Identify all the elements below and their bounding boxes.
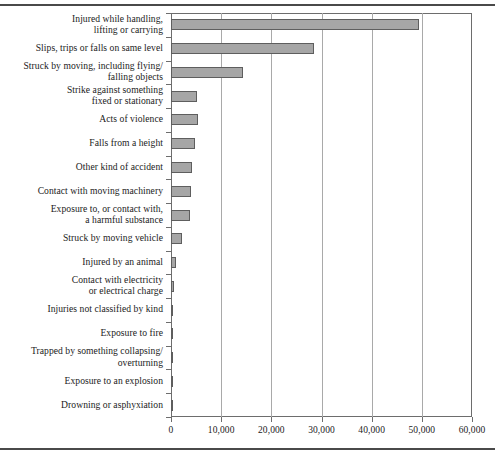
y-tickmark (166, 393, 171, 394)
bar (171, 67, 243, 78)
bar (171, 186, 191, 197)
bar (171, 43, 314, 54)
y-tickmark (166, 61, 171, 62)
gridline-40000 (372, 13, 373, 417)
category-label: Injuries not classified by kind (0, 303, 163, 314)
y-tickmark (166, 203, 171, 204)
category-label: Struck by moving vehicle (0, 232, 163, 243)
gridline-50000 (422, 13, 423, 417)
bar (171, 281, 174, 292)
y-tickmark (166, 346, 171, 347)
category-label: Exposure to fire (0, 327, 163, 338)
y-tickmark (166, 156, 171, 157)
bar (171, 352, 173, 363)
y-tickmark (166, 108, 171, 109)
category-label: Drowning or asphyxiation (0, 399, 163, 410)
y-tickmark (166, 298, 171, 299)
bar (171, 257, 176, 268)
bar (171, 305, 173, 316)
bar (171, 328, 173, 339)
category-label: Contact with moving machinery (0, 185, 163, 196)
bar (171, 91, 197, 102)
y-tickmark (166, 251, 171, 252)
horizontal-bar-chart: Injured while handling, lifting or carry… (0, 0, 495, 458)
gridline-20000 (271, 13, 272, 417)
x-tickmark (472, 417, 473, 422)
category-label: Acts of violence (0, 113, 163, 124)
y-tickmark (166, 274, 171, 275)
bar (171, 138, 195, 149)
bar (171, 210, 190, 221)
bar (171, 19, 419, 30)
bar (171, 162, 192, 173)
category-label: Contact with electricity or electrical c… (0, 274, 163, 296)
y-tickmark (166, 84, 171, 85)
gridline-30000 (322, 13, 323, 417)
y-tickmark (166, 37, 171, 38)
bar (171, 400, 173, 411)
bar (171, 233, 182, 244)
y-tickmark (166, 369, 171, 370)
x-tickmark (171, 417, 172, 422)
x-tickmark (372, 417, 373, 422)
category-label: Exposure to, or contact with, a harmful … (0, 203, 163, 225)
category-label: Injured by an animal (0, 256, 163, 267)
bar (171, 376, 173, 387)
category-label: Exposure to an explosion (0, 375, 163, 386)
y-tickmark (166, 227, 171, 228)
category-label: Trapped by something collapsing/ overtur… (0, 345, 163, 367)
y-tickmark (166, 179, 171, 180)
x-tickmark (221, 417, 222, 422)
y-tickmark (166, 322, 171, 323)
x-tickmark (322, 417, 323, 422)
x-tickmark (422, 417, 423, 422)
category-label: Falls from a height (0, 137, 163, 148)
x-axis-tick-label: 60,000 (442, 424, 495, 436)
category-label: Strike against something fixed or statio… (0, 84, 163, 106)
x-tickmark (271, 417, 272, 422)
category-label: Slips, trips or falls on same level (0, 42, 163, 53)
y-tickmark (166, 132, 171, 133)
category-label: Struck by moving, including flying/ fall… (0, 60, 163, 82)
bar (171, 114, 198, 125)
category-label: Injured while handling, lifting or carry… (0, 13, 163, 35)
category-label: Other kind of accident (0, 161, 163, 172)
y-tickmark (166, 13, 171, 14)
